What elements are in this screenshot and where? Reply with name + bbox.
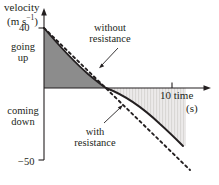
x-axis-units: (s) xyxy=(186,103,198,115)
x-axis-title: 10 time xyxy=(160,90,193,102)
without-resistance-leader-arrowhead xyxy=(99,64,104,69)
label-with-resistance: with resistance xyxy=(62,126,128,149)
x-axis-title-text: time xyxy=(174,89,194,101)
with-resistance-leader-line xyxy=(104,107,121,123)
label-without-resistance: without resistance xyxy=(76,22,144,45)
y-tick-label-40: 40 xyxy=(19,22,30,33)
velocity-time-graph: velocity (m s−1) 40 −50 10 time (s) goin… xyxy=(0,0,219,185)
y-axis-units-close: ) xyxy=(34,15,38,27)
y-tick-label-minus-50: −50 xyxy=(18,156,34,167)
label-coming-down: coming down xyxy=(0,105,46,128)
label-going-up: going up xyxy=(4,41,42,64)
x-tick-label-10: 10 xyxy=(160,89,171,101)
y-axis-arrowhead xyxy=(41,8,47,16)
x-axis-arrowhead xyxy=(204,85,212,91)
without-resistance-leader-line xyxy=(101,48,118,66)
